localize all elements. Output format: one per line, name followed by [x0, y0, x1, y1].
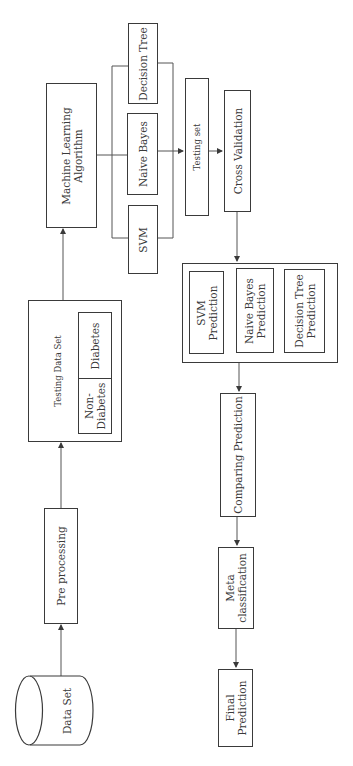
node-pre-processing: Pre processing	[44, 508, 78, 624]
node-non-diabetes: Non- Diabetes	[78, 378, 112, 434]
label-comparing-prediction: Comparing Prediction	[232, 396, 244, 513]
node-testing-data-set: Testing Data Set Diabetes Non- Diabetes	[28, 300, 122, 442]
node-svm-prediction: SVM Prediction	[189, 271, 224, 354]
label-meta-classification: Meta classification	[224, 553, 248, 622]
predictions-group: SVM Prediction Naive Bayes Prediction De…	[182, 263, 338, 363]
label-svm: SVM	[137, 227, 149, 253]
label-dt-prediction: Decision Tree Prediction	[293, 274, 317, 348]
node-svm: SVM	[128, 205, 158, 274]
label-nb-prediction: Naive Bayes Prediction	[243, 278, 267, 344]
node-diabetes: Diabetes	[78, 312, 112, 379]
node-decision-tree: Decision Tree	[128, 23, 158, 104]
label-final-prediction: Final Prediction	[224, 681, 248, 736]
node-final-prediction: Final Prediction	[218, 669, 253, 747]
label-pre-processing: Pre processing	[55, 526, 67, 605]
label-diabetes: Diabetes	[89, 322, 101, 369]
label-naive-bayes: Naive Bayes	[137, 121, 149, 187]
label-svm-prediction: SVM Prediction	[195, 285, 219, 340]
node-data-set: Data Set	[30, 676, 94, 745]
node-testing-set: Testing set	[185, 78, 209, 216]
node-comparing-prediction: Comparing Prediction	[220, 393, 256, 517]
label-data-set: Data Set	[61, 687, 73, 733]
node-dt-prediction: Decision Tree Prediction	[284, 269, 325, 353]
label-non-diabetes: Non- Diabetes	[83, 383, 107, 430]
label-cross-validation: Cross Validation	[232, 108, 244, 195]
node-meta-classification: Meta classification	[218, 547, 254, 629]
node-ml-algorithm: Machine Learning Algorithm	[46, 83, 97, 228]
label-decision-tree: Decision Tree	[137, 27, 149, 101]
node-nb-prediction: Naive Bayes Prediction	[236, 268, 274, 353]
label-ml-algorithm: Machine Learning Algorithm	[60, 107, 84, 204]
label-testing-data-set: Testing Data Set	[52, 335, 64, 407]
label-testing-set: Testing set	[191, 124, 203, 171]
node-naive-bayes: Naive Bayes	[127, 113, 158, 195]
node-cross-validation: Cross Validation	[224, 90, 251, 212]
flow-diagram: Data Set Pre processing Testing Data Set…	[0, 0, 353, 766]
